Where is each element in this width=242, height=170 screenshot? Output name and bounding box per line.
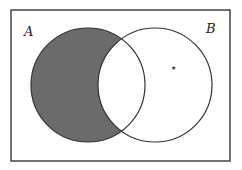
set-b-label: B: [205, 21, 216, 36]
star-marker-icon: ★: [171, 64, 176, 71]
venn-diagram: A B ★: [0, 0, 242, 170]
set-a-label: A: [23, 24, 33, 39]
